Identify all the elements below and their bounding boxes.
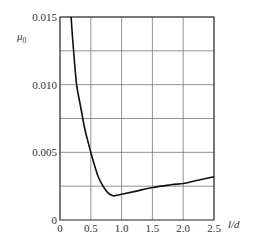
y-tick-label: 0 (52, 214, 58, 226)
y-tick-label: 0.015 (32, 11, 57, 23)
x-tick-label: 0 (57, 222, 63, 234)
x-tick-label: 1.0 (115, 222, 129, 234)
y-axis-label-sub: 0 (23, 36, 27, 45)
x-tick-label: 0.5 (84, 222, 98, 234)
y-tick-label: 0.010 (32, 79, 57, 91)
y-tick-labels: 00.0050.0100.015 (32, 11, 57, 226)
y-axis-label: μ0 (16, 30, 27, 45)
data-line (71, 17, 214, 196)
x-tick-label: 1.5 (146, 222, 160, 234)
chart: 00.51.01.52.02.5 00.0050.0100.015 μ0 l/d (0, 0, 255, 249)
x-tick-label: 2.0 (176, 222, 190, 234)
x-tick-label: 2.5 (207, 222, 221, 234)
x-axis-label: l/d (228, 218, 240, 230)
x-tick-labels: 00.51.01.52.02.5 (57, 222, 221, 234)
y-tick-label: 0.005 (32, 146, 57, 158)
